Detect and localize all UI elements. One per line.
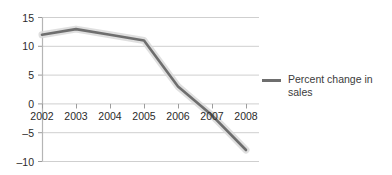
y-axis-label-5: –10 bbox=[16, 156, 34, 168]
legend-label-percent-change-in-sales: Percent change in sales bbox=[288, 73, 392, 98]
x-axis-label-2002: 2002 bbox=[30, 110, 54, 122]
x-axis-label-2008: 2008 bbox=[234, 110, 258, 122]
chart-container: 15 10 5 0 –5 –10 2002 2003 2004 2005 200… bbox=[0, 0, 392, 175]
gridlines bbox=[42, 18, 259, 162]
chart-legend: Percent change in sales bbox=[262, 73, 392, 98]
x-axis-ticks bbox=[43, 104, 247, 109]
legend-swatch-percent-change-in-sales bbox=[262, 79, 281, 82]
y-axis-label-4: –5 bbox=[22, 127, 34, 139]
series-line-shadow bbox=[42, 29, 246, 150]
series-line-percent-change-in-sales bbox=[42, 29, 246, 150]
x-axis-label-2005: 2005 bbox=[132, 110, 156, 122]
y-axis-label-1: 10 bbox=[22, 40, 34, 52]
y-axis-label-3: 0 bbox=[28, 98, 34, 110]
y-axis-labels: 15 10 5 0 –5 –10 bbox=[16, 12, 34, 168]
x-axis-label-2004: 2004 bbox=[98, 110, 122, 122]
x-axis-labels: 2002 2003 2004 2005 2006 2007 2008 bbox=[30, 110, 258, 122]
y-axis-label-0: 15 bbox=[22, 12, 34, 24]
x-axis-label-2006: 2006 bbox=[166, 110, 190, 122]
y-axis-ticks bbox=[38, 18, 42, 162]
x-axis-label-2003: 2003 bbox=[64, 110, 88, 122]
x-axis-label-2007: 2007 bbox=[200, 110, 224, 122]
y-axis-label-2: 5 bbox=[28, 69, 34, 81]
